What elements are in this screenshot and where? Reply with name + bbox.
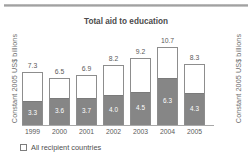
bar-total-value-2003: 9.2: [124, 49, 157, 56]
bar-2002: 4.0: [103, 65, 124, 126]
bar-total-value-2002: 8.2: [97, 56, 130, 63]
bar-segment-value-2003: 4.5: [136, 105, 145, 112]
bar-segment-value-1999: 3.3: [28, 110, 37, 117]
bar-2004: 6.3: [157, 47, 178, 126]
bar-total-value-2001: 6.9: [70, 66, 103, 73]
legend-swatch-all-recipient-countries: [20, 144, 27, 151]
bar-segment-value-2004: 6.3: [163, 98, 172, 105]
plot-area: 3.33.63.74.04.56.34.3: [22, 40, 212, 126]
bar-segment-lower-2000: 3.6: [50, 98, 69, 125]
top-divider-rule: [4, 4, 248, 7]
bar-segment-value-2000: 3.6: [55, 108, 64, 115]
bar-segment-lower-2005: 4.3: [185, 93, 204, 125]
bar-2001: 3.7: [76, 75, 97, 126]
bar-segment-lower-2003: 4.5: [131, 92, 150, 125]
bar-segment-lower-1999: 3.3: [23, 101, 42, 125]
bar-segment-value-2001: 3.7: [82, 108, 91, 115]
y-axis-label-left: Constant 2005 US$ billions: [10, 27, 19, 131]
bar-segment-value-2005: 4.3: [190, 106, 199, 113]
bar-2000: 3.6: [49, 78, 70, 126]
bar-total-value-2004: 10.7: [151, 38, 184, 45]
bar-segment-lower-2001: 3.7: [77, 98, 96, 125]
bar-2003: 4.5: [130, 58, 151, 126]
bar-2005: 4.3: [184, 64, 205, 126]
bar-segment-value-2002: 4.0: [109, 107, 118, 114]
bar-segment-lower-2004: 6.3: [158, 78, 177, 125]
legend-label-all-recipient-countries: All recipient countries: [31, 144, 101, 151]
chart-legend: All recipient countries: [20, 144, 101, 151]
y-axis-label-right: Constant 2005 US$ billions: [234, 27, 243, 131]
bar-total-value-2005: 8.3: [178, 55, 211, 62]
bar-segment-lower-2002: 4.0: [104, 95, 123, 125]
x-axis-baseline: [22, 125, 214, 126]
chart-figure: Constant 2005 US$ billions Constant 2005…: [0, 0, 252, 163]
bar-1999: 3.3: [22, 72, 43, 126]
chart-title: Total aid to education: [0, 17, 252, 26]
x-axis-tick-2005: 2005: [178, 129, 211, 136]
